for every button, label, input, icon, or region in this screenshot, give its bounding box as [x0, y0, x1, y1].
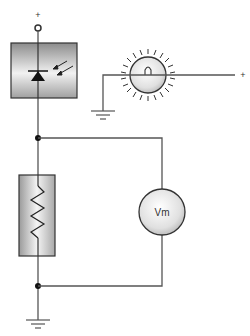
lamp-plus-label: +: [240, 70, 245, 80]
circuit-diagram: + Vm: [0, 0, 250, 336]
ground-icon: [26, 320, 50, 328]
lamp-wire: [103, 75, 235, 111]
resistor: [19, 175, 55, 256]
wire-to-voltmeter-bottom: [38, 235, 162, 286]
voltmeter: Vm: [139, 189, 185, 235]
lamp-ground-icon: [91, 111, 115, 119]
top-plus-label: +: [35, 10, 40, 20]
wire-to-voltmeter-top: [38, 138, 162, 189]
photodiode: [11, 43, 77, 98]
voltmeter-label: Vm: [155, 207, 170, 218]
terminal-circle-icon: [35, 25, 41, 31]
resistor-housing: [19, 175, 55, 256]
top-supply-terminal: +: [35, 10, 41, 31]
